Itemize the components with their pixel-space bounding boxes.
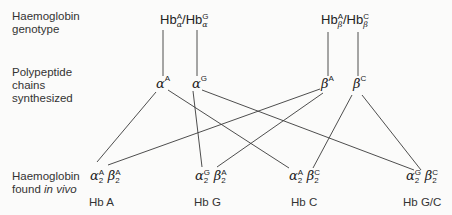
line-alphaG-HbGC	[202, 90, 414, 170]
line-alphaG-HbG	[193, 91, 202, 167]
alpha-symbol: α	[289, 168, 298, 183]
chain-allele: G	[201, 74, 207, 83]
chain-allele: A	[165, 74, 170, 83]
alpha-symbol: α	[90, 168, 99, 183]
allele-stack: Gα	[202, 13, 208, 29]
chain-beta-C: βC	[353, 76, 366, 91]
count-sub: 2	[221, 177, 226, 185]
allele-stack: Cβ	[363, 13, 369, 29]
beta-symbol: β	[108, 168, 116, 183]
count-sub: 2	[298, 177, 303, 185]
chain-alpha-G: αG	[192, 76, 207, 91]
alpha-stack: A2	[99, 169, 104, 185]
beta-symbol: β	[307, 168, 315, 183]
chain-sub: α	[202, 21, 208, 29]
haemoglobin-GC-formula: αG2 βC2	[406, 168, 438, 185]
chain-symbol: α	[192, 76, 201, 91]
chain-sub: β	[363, 21, 369, 29]
genotype-alpha: HbAα/HbGα	[160, 12, 209, 29]
count-sub: 2	[204, 177, 210, 185]
chain-allele: A	[329, 74, 334, 83]
haemoglobin-C-formula: αA2 βC2	[289, 168, 320, 185]
haemoglobin-G-name: Hb G	[194, 196, 221, 208]
line-betaC-HbGC	[362, 95, 421, 170]
alpha-stack: A2	[298, 169, 303, 185]
genotype-prefix: Hb	[321, 12, 338, 27]
chain-symbol: β	[321, 76, 329, 91]
haemoglobin-GC-name: Hb G/C	[403, 196, 441, 208]
genotype-separator: /Hb	[182, 12, 202, 27]
beta-stack: C2	[432, 169, 438, 185]
beta-stack: A2	[115, 169, 120, 185]
haemoglobin-A-formula: αA2 βA2	[90, 168, 121, 185]
count-sub: 2	[115, 177, 120, 185]
chain-allele: C	[361, 74, 367, 83]
alpha-symbol: α	[195, 168, 204, 183]
haemoglobin-C-name: Hb C	[291, 196, 317, 208]
chain-alpha-A: αA	[156, 76, 170, 91]
beta-stack: C2	[314, 169, 320, 185]
count-sub: 2	[432, 177, 438, 185]
beta-symbol: β	[425, 168, 433, 183]
chain-beta-A: βA	[321, 76, 334, 91]
line-alphaA-HbA	[97, 92, 156, 162]
genotype-separator: /Hb	[343, 12, 363, 27]
count-sub: 2	[314, 177, 320, 185]
chain-symbol: β	[353, 76, 361, 91]
count-sub: 2	[99, 177, 104, 185]
genotype-beta: HbAβ/HbCβ	[321, 12, 369, 29]
haemoglobin-A-name: Hb A	[89, 196, 114, 208]
alpha-symbol: α	[406, 168, 415, 183]
genotype-prefix: Hb	[160, 12, 177, 27]
line-betaC-HbC	[313, 95, 352, 168]
count-sub: 2	[415, 177, 421, 185]
alpha-stack: G2	[204, 169, 210, 185]
beta-symbol: β	[214, 168, 222, 183]
alpha-stack: G2	[415, 169, 421, 185]
beta-stack: A2	[221, 169, 226, 185]
chain-symbol: α	[156, 76, 165, 91]
haemoglobin-G-formula: αG2 βA2	[195, 168, 227, 185]
line-betaA-HbA	[108, 89, 320, 165]
